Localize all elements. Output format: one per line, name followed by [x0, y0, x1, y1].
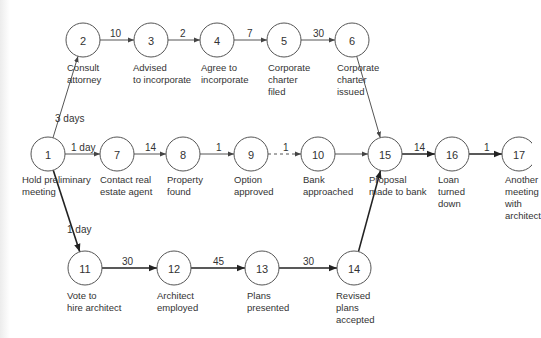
- node-activity-label: Corporate charter filed: [268, 62, 310, 98]
- node-15: 15: [368, 137, 402, 171]
- edge-duration-label: 14: [145, 142, 157, 153]
- node-4: 4: [200, 23, 234, 57]
- edge-duration-label: 45: [213, 256, 225, 267]
- node-12: 12: [157, 251, 191, 285]
- node-11: 11: [68, 251, 102, 285]
- node-number: 15: [379, 149, 391, 161]
- node-number: 1: [45, 149, 51, 161]
- edge-duration-label: 1: [484, 142, 490, 153]
- node-number: 11: [79, 263, 90, 275]
- edge-duration-label: 30: [313, 28, 325, 39]
- edge-duration-label: 7: [247, 28, 253, 39]
- node-activity-label: Proposal made to bank: [369, 174, 427, 198]
- node-number: 13: [256, 263, 268, 275]
- edge-duration-label: 1 day: [67, 224, 91, 235]
- node-number: 12: [168, 263, 180, 275]
- node-activity-label: Hold preliminary meeting: [22, 174, 91, 198]
- node-number: 6: [349, 35, 355, 47]
- node-activity-label: Vote to hire architect: [67, 290, 121, 314]
- node-9: 9: [234, 137, 268, 171]
- node-number: 17: [513, 149, 525, 161]
- edge-duration-label: 1: [283, 142, 289, 153]
- node-number: 7: [114, 149, 120, 161]
- node-6: 6: [335, 23, 369, 57]
- edge-duration-label: 2: [180, 28, 186, 39]
- edge-duration-label: 1 day: [71, 142, 95, 153]
- node-number: 2: [80, 35, 86, 47]
- node-3: 3: [134, 23, 168, 57]
- node-activity-label: Agree to incorporate: [201, 62, 249, 86]
- node-activity-label: Bank approached: [303, 174, 353, 198]
- node-activity-label: Plans presented: [247, 290, 289, 314]
- node-2: 2: [66, 23, 100, 57]
- node-number: 4: [214, 35, 220, 47]
- node-activity-label: Loan turned down: [438, 174, 465, 210]
- node-activity-label: Corporate charter issued: [337, 62, 379, 98]
- node-number: 5: [281, 35, 287, 47]
- node-activity-label: Advised to incorporate: [133, 62, 191, 86]
- node-14: 14: [337, 251, 371, 285]
- node-16: 16: [435, 137, 469, 171]
- node-activity-label: Consult attorney: [67, 62, 101, 86]
- node-8: 8: [166, 137, 200, 171]
- edge-duration-label: 10: [110, 28, 122, 39]
- edge-duration-label: 1: [216, 142, 222, 153]
- node-activity-label: Contact real estate agent: [100, 174, 152, 198]
- node-number: 14: [348, 263, 360, 275]
- node-5: 5: [267, 23, 301, 57]
- node-13: 13: [245, 251, 279, 285]
- node-activity-label: Another meeting with architect: [505, 174, 541, 222]
- node-17: 17: [502, 137, 532, 171]
- edge-duration-label: 30: [122, 256, 134, 267]
- node-number: 10: [312, 149, 324, 161]
- edge-duration-label: 3 days: [55, 113, 84, 124]
- node-1: 1: [31, 137, 65, 171]
- node-number: 3: [148, 35, 154, 47]
- node-activity-label: Revised plans accepted: [336, 290, 375, 326]
- node-number: 8: [180, 149, 186, 161]
- node-activity-label: Architect employed: [157, 290, 198, 314]
- node-number: 16: [446, 149, 458, 161]
- node-10: 10: [301, 137, 335, 171]
- node-activity-label: Property found: [167, 174, 203, 198]
- edge-duration-label: 14: [414, 142, 426, 153]
- node-7: 7: [100, 137, 134, 171]
- node-activity-label: Option approved: [234, 174, 274, 198]
- edge-duration-label: 30: [303, 256, 315, 267]
- node-number: 9: [248, 149, 254, 161]
